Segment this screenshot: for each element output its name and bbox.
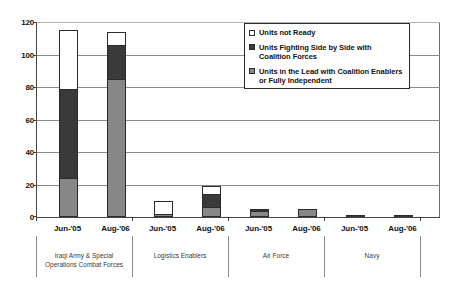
group-separator-1	[132, 236, 133, 277]
x-tick-label-iraqi-army-aug-06: Aug-'06	[101, 224, 129, 233]
legend-item-in-lead: Units in the Lead with Coalition Enabler…	[249, 67, 405, 86]
bar-segment-not-ready	[59, 30, 78, 89]
plot-area: Units not Ready Units Fighting Side by S…	[36, 22, 440, 217]
legend-item-not-ready: Units not Ready	[249, 28, 405, 38]
legend-label-not-ready: Units not Ready	[259, 28, 315, 38]
x-tick-label-air-force-jun-05: Jun-'05	[245, 224, 272, 233]
y-tick-label-20: 20	[0, 180, 34, 189]
legend-swatch-white-icon	[249, 30, 255, 36]
gridline-60	[37, 120, 440, 121]
bar-iraqi-army-jun-05[interactable]	[59, 30, 78, 217]
x-axis-baseline	[36, 217, 440, 218]
x-tick-mark-2	[228, 217, 229, 221]
x-tick-mark-3	[324, 217, 325, 221]
y-tick-label-60: 60	[0, 115, 34, 124]
group-separator-2	[228, 236, 229, 277]
bar-segment-in-lead	[202, 207, 221, 217]
bar-segment-not-ready	[107, 32, 126, 45]
bar-segment-in-lead	[59, 178, 78, 217]
bar-air-force-aug-06[interactable]	[298, 209, 317, 217]
x-tick-mark-0	[36, 217, 37, 221]
y-tick-label-0: 0	[0, 213, 34, 222]
y-tick-mark-80	[33, 87, 37, 88]
chart-legend: Units not Ready Units Fighting Side by S…	[244, 23, 410, 89]
bar-segment-side-by-side	[202, 194, 221, 207]
legend-label-in-lead: Units in the Lead with Coalition Enabler…	[259, 67, 405, 86]
x-tick-label-navy-aug-06: Aug-'06	[388, 224, 416, 233]
x-tick-mark-1	[132, 217, 133, 221]
y-tick-label-40: 40	[0, 148, 34, 157]
bar-segment-in-lead	[298, 209, 317, 217]
y-tick-mark-100	[33, 55, 37, 56]
group-label-navy: Navy	[327, 252, 417, 261]
bar-logistics-jun-05[interactable]	[154, 201, 173, 217]
gridline-20	[37, 185, 440, 186]
group-label-logistics: Logistics Enablers	[135, 252, 225, 261]
x-tick-label-iraqi-army-jun-05: Jun-'05	[54, 224, 81, 233]
y-tick-label-100: 100	[0, 50, 34, 59]
y-tick-mark-60	[33, 120, 37, 121]
y-tick-label-120: 120	[0, 18, 34, 27]
x-tick-label-logistics-jun-05: Jun-'05	[149, 224, 176, 233]
x-tick-label-navy-jun-05: Jun-'05	[341, 224, 368, 233]
y-tick-mark-120	[33, 22, 37, 23]
group-separator-4	[420, 236, 421, 277]
y-tick-mark-40	[33, 152, 37, 153]
group-label-air-force: Air Force	[231, 252, 321, 261]
legend-label-side-by-side: Units Fighting Side by Side with Coaliti…	[259, 43, 405, 62]
bar-logistics-aug-06[interactable]	[202, 186, 221, 217]
bar-segment-side-by-side	[59, 89, 78, 178]
x-tick-label-air-force-aug-06: Aug-'06	[292, 224, 320, 233]
legend-item-side-by-side: Units Fighting Side by Side with Coaliti…	[249, 43, 405, 62]
bar-segment-not-ready	[202, 186, 221, 194]
group-separator-3	[324, 236, 325, 277]
group-label-iraqi-army: Iraqi Army & Special Operations Combat F…	[39, 252, 129, 269]
group-separator-0	[36, 236, 37, 277]
y-tick-mark-20	[33, 185, 37, 186]
bar-segment-not-ready	[154, 201, 173, 214]
legend-swatch-dark-gray-icon	[249, 44, 255, 50]
bar-segment-side-by-side	[107, 45, 126, 79]
x-tick-mark-4	[420, 217, 421, 221]
stacked-bar-chart: 120 100 80 60 40 20 0	[0, 0, 458, 293]
bar-iraqi-army-aug-06[interactable]	[107, 32, 126, 217]
gridline-40	[37, 152, 440, 153]
bar-air-force-jun-05[interactable]	[250, 209, 269, 217]
y-tick-label-80: 80	[0, 83, 34, 92]
bar-segment-in-lead	[107, 79, 126, 217]
x-tick-label-logistics-aug-06: Aug-'06	[196, 224, 224, 233]
legend-swatch-medium-gray-icon	[249, 68, 255, 74]
